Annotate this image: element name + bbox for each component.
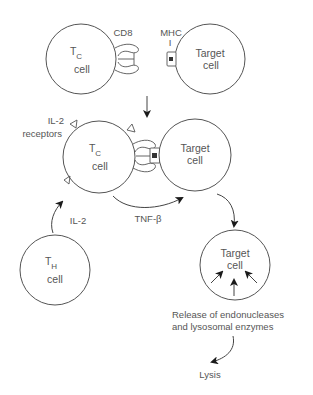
cd8-label: CD8 [113, 27, 132, 38]
release-label-line2: and lysosomal enzymes [172, 321, 274, 332]
target-cell-label-line1: Target [180, 142, 209, 154]
tc-cell-label-sub: C [76, 52, 82, 61]
il2-receptors-label-line2: receptors [22, 128, 62, 139]
to-lysis-target-arrow-icon [217, 194, 234, 226]
th-cell-label-sub: H [51, 262, 57, 271]
release-label-line1: Release of endonucleases [172, 309, 284, 320]
target-cell-label-line2: cell [227, 259, 243, 271]
tc-cell-killing-diagram: TC cell CD8 Target cell MHC I IL-2 recep… [0, 0, 313, 395]
target-cell-label-line2: cell [203, 59, 219, 71]
il2-arrow-icon [52, 202, 62, 233]
bottom-target-cell: Target cell [200, 230, 270, 300]
middle-target-cell: Target cell [159, 119, 231, 191]
lysis-arrow-icon [212, 336, 234, 362]
lysis-label: Lysis [199, 369, 221, 380]
mhc-class-label: I [169, 37, 172, 48]
tc-cell-label-sub: C [95, 149, 101, 158]
top-tc-cell: TC cell [46, 24, 116, 94]
tnf-beta-label: TNF-β [134, 213, 162, 224]
target-cell-label-line2: cell [187, 154, 203, 166]
th-cell-label-line2: cell [47, 273, 63, 285]
tc-cell-label-line2: cell [92, 160, 108, 172]
target-cell-label-line1: Target [195, 47, 224, 59]
mhc-class-i-icon [150, 148, 160, 163]
mhc-class-i-icon [167, 52, 176, 66]
cd8-coreceptor-icon [115, 44, 138, 74]
tc-cell-label-line2: cell [74, 63, 90, 75]
th-cell: TH cell [20, 235, 90, 305]
target-cell-label-line1: Target [220, 247, 249, 259]
il2-receptors-label-line1: IL-2 [48, 115, 64, 126]
il2-label: IL-2 [70, 215, 86, 226]
top-target-cell: Target cell [175, 24, 245, 94]
middle-tc-cell: TC cell [63, 121, 135, 193]
tnf-arrow-icon [113, 196, 182, 208]
